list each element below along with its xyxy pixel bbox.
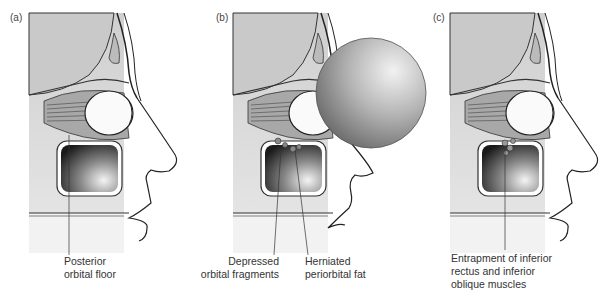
panel-label-c: (c)	[433, 12, 445, 23]
sphere-impact-object	[316, 38, 426, 148]
panel-label-b: (b)	[216, 12, 228, 23]
caption-posterior-orbital-floor: Posterior orbital floor	[64, 255, 116, 281]
panel-label-a: (a)	[10, 12, 22, 23]
panel-c-illustration	[450, 13, 598, 253]
panel-a-illustration	[29, 13, 177, 253]
caption-entrapment: Entrapment of inferior rectus and inferi…	[451, 252, 552, 291]
caption-depressed-fragments: Depressed orbital fragments	[195, 255, 279, 281]
caption-herniated-fat: Herniated periorbital fat	[305, 255, 366, 281]
